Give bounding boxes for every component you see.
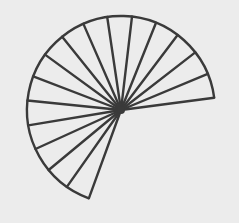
- sector-diagram: [0, 0, 239, 223]
- center-hub: [117, 106, 125, 114]
